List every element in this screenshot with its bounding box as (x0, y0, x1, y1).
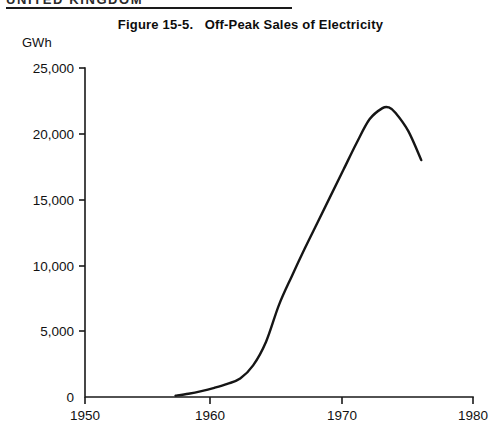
y-tick-label-0: 0 (66, 390, 74, 405)
chart-plot-area: 25,000 20,000 15,000 10,000 5,000 0 1950… (0, 0, 501, 435)
y-tick-label-20000: 20,000 (33, 127, 74, 142)
series-line-off-peak-sales (176, 107, 422, 396)
x-tick-label-1970: 1970 (327, 408, 357, 423)
x-axis-tick-labels: 1950 1960 1970 1980 (70, 408, 488, 423)
data-series-group (176, 107, 422, 396)
y-tick-label-15000: 15,000 (33, 193, 74, 208)
x-tick-label-1980: 1980 (458, 408, 488, 423)
x-tick-label-1960: 1960 (195, 408, 225, 423)
y-tick-label-10000: 10,000 (33, 259, 74, 274)
line-chart-svg: 25,000 20,000 15,000 10,000 5,000 0 1950… (0, 0, 501, 435)
x-tick-label-1950: 1950 (70, 408, 100, 423)
y-tick-label-25000: 25,000 (33, 61, 74, 76)
chart-axes (85, 68, 473, 397)
y-tick-label-5000: 5,000 (40, 324, 74, 339)
y-axis-tick-labels: 25,000 20,000 15,000 10,000 5,000 0 (33, 61, 74, 405)
y-axis-ticks (79, 68, 85, 331)
x-axis-ticks (85, 397, 473, 404)
axis-lines (85, 68, 473, 397)
